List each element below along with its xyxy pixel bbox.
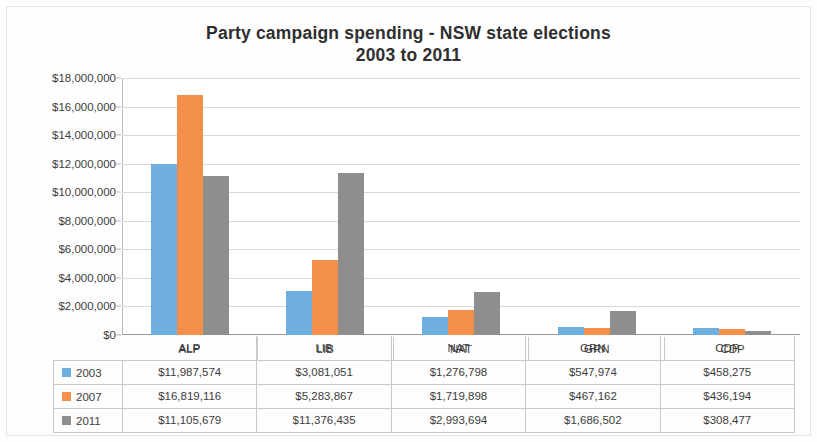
table-column-header-nat: NAT <box>391 336 525 360</box>
y-axis-tick-mark <box>116 220 121 221</box>
legend-entry-2011: 2011 <box>54 408 123 432</box>
y-axis-tick-label: $18,000,000 <box>0 72 116 84</box>
table-row: 2007$16,819,116$5,283,867$1,719,898$467,… <box>54 384 795 408</box>
legend-entry-2003: 2003 <box>54 360 123 384</box>
bar-groups <box>122 78 800 335</box>
bar-lib-2003[interactable] <box>286 291 312 335</box>
table-cell-alp-2011: $11,105,679 <box>123 408 257 432</box>
y-axis-tick-mark <box>116 192 121 193</box>
y-axis-tick-mark <box>116 106 121 107</box>
bar-group-lib <box>258 78 394 335</box>
bar-nat-2007[interactable] <box>448 310 474 335</box>
bar-group-nat <box>393 78 529 335</box>
table-cell-nat-2003: $1,276,798 <box>391 360 525 384</box>
table-row: 2003$11,987,574$3,081,051$1,276,798$547,… <box>54 360 795 384</box>
table-cell-cdp-2003: $458,275 <box>660 360 794 384</box>
bar-alp-2003[interactable] <box>151 164 177 335</box>
y-axis-tick-label: $10,000,000 <box>0 186 116 198</box>
y-axis-tick-label: $16,000,000 <box>0 101 116 113</box>
table-cell-nat-2011: $2,993,694 <box>391 408 525 432</box>
y-axis-tick-label: $14,000,000 <box>0 129 116 141</box>
bar-lib-2007[interactable] <box>312 260 338 335</box>
y-axis-tick-mark <box>116 249 121 250</box>
bar-cdp-2007[interactable] <box>719 329 745 335</box>
table-cell-grn-2003: $547,974 <box>526 360 660 384</box>
y-axis-tick-label: $6,000,000 <box>0 243 116 255</box>
bar-alp-2011[interactable] <box>203 176 229 335</box>
plot-area <box>122 78 800 335</box>
table-cell-alp-2003: $11,987,574 <box>123 360 257 384</box>
chart-title: Party campaign spending - NSW state elec… <box>0 22 817 66</box>
table-cell-nat-2007: $1,719,898 <box>391 384 525 408</box>
table-cell-grn-2011: $1,686,502 <box>526 408 660 432</box>
bar-group-grn <box>529 78 665 335</box>
y-axis-tick-mark <box>116 163 121 164</box>
table-cell-alp-2007: $16,819,116 <box>123 384 257 408</box>
table-cell-lib-2003: $3,081,051 <box>257 360 391 384</box>
bar-group-cdp <box>664 78 800 335</box>
y-axis: $18,000,000$16,000,000$14,000,000$12,000… <box>0 78 116 335</box>
bar-cdp-2011[interactable] <box>745 331 771 335</box>
bar-group-alp <box>122 78 258 335</box>
y-axis-tick-label: $4,000,000 <box>0 272 116 284</box>
table-column-header-cdp: CDP <box>660 336 794 360</box>
table-cell-lib-2007: $5,283,867 <box>257 384 391 408</box>
y-axis-tick-mark <box>116 306 121 307</box>
bar-grn-2003[interactable] <box>558 327 584 335</box>
bar-nat-2003[interactable] <box>422 317 448 335</box>
legend-swatch-icon-2011 <box>62 416 71 425</box>
y-axis-tick-label: $8,000,000 <box>0 215 116 227</box>
legend-entry-2007: 2007 <box>54 384 123 408</box>
bar-grn-2011[interactable] <box>610 311 636 335</box>
table-cell-grn-2007: $467,162 <box>526 384 660 408</box>
bar-cdp-2003[interactable] <box>693 328 719 335</box>
y-axis-tick-mark <box>116 277 121 278</box>
chart-title-line2: 2003 to 2011 <box>0 44 817 66</box>
table-column-header-lib: LIB <box>257 336 391 360</box>
table-cell-cdp-2007: $436,194 <box>660 384 794 408</box>
chart-container: Party campaign spending - NSW state elec… <box>0 0 817 442</box>
table-column-header-grn: GRN <box>526 336 660 360</box>
y-axis-tick-label: $2,000,000 <box>0 300 116 312</box>
table-header-row: ALPLIBNATGRNCDP <box>54 336 795 360</box>
bar-grn-2007[interactable] <box>584 328 610 335</box>
y-axis-tick-mark <box>116 135 121 136</box>
table-cell-cdp-2011: $308,477 <box>660 408 794 432</box>
legend-label-2007: 2007 <box>76 390 102 402</box>
bar-lib-2011[interactable] <box>338 173 364 335</box>
y-axis-tick-mark <box>116 78 121 79</box>
bar-alp-2007[interactable] <box>177 95 203 335</box>
data-table: ALPLIBNATGRNCDP2003$11,987,574$3,081,051… <box>53 336 795 433</box>
legend-label-2003: 2003 <box>76 366 102 378</box>
y-axis-tick-label: $12,000,000 <box>0 158 116 170</box>
legend-swatch-icon-2007 <box>62 392 71 401</box>
table-row: 2011$11,105,679$11,376,435$2,993,694$1,6… <box>54 408 795 432</box>
chart-title-line1: Party campaign spending - NSW state elec… <box>206 23 611 43</box>
table-corner-cell <box>54 336 123 360</box>
table-column-header-alp: ALP <box>123 336 257 360</box>
table-cell-lib-2011: $11,376,435 <box>257 408 391 432</box>
bar-nat-2011[interactable] <box>474 292 500 335</box>
legend-swatch-icon-2003 <box>62 368 71 377</box>
legend-label-2011: 2011 <box>76 414 101 426</box>
